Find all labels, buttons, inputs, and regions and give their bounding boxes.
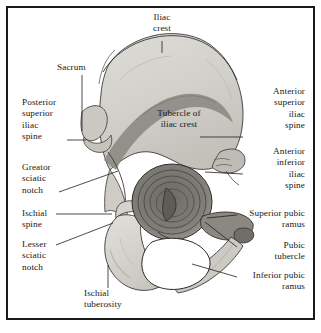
label-lesser-sciatic-notch: Lesser sciatic notch	[22, 239, 72, 273]
label-anterior-inferior-iliac-spine: Anterior inferior iliac spine	[243, 146, 305, 192]
acetabulum-region	[132, 164, 212, 240]
label-ischial-tuberosity: Ischial tuberosity	[84, 288, 154, 311]
label-greator-sciatic-notch: Greator sciatic notch	[22, 162, 78, 196]
label-ischial-spine: Ischial spine	[22, 208, 72, 231]
ilium-region	[99, 34, 243, 170]
label-superior-pubic-ramus: Superior pubic ramus	[237, 208, 305, 231]
anatomy-figure-root: Iliac crest Sacrum Posterior superior il…	[0, 0, 321, 333]
label-tubercle-of-iliac-crest: Tubercle of iliac crest	[141, 108, 217, 131]
label-pubic-tubercle: Pubic tubercle	[243, 240, 305, 263]
label-sacrum: Sacrum	[57, 62, 117, 73]
label-inferior-pubic-ramus: Inferior pubic ramus	[237, 270, 305, 293]
label-anterior-superior-iliac-spine: Anterior superior iliac spine	[243, 86, 305, 132]
label-posterior-superior-iliac-spine: Posterior superior iliac spine	[22, 97, 78, 143]
label-iliac-crest: Iliac crest	[139, 12, 185, 35]
